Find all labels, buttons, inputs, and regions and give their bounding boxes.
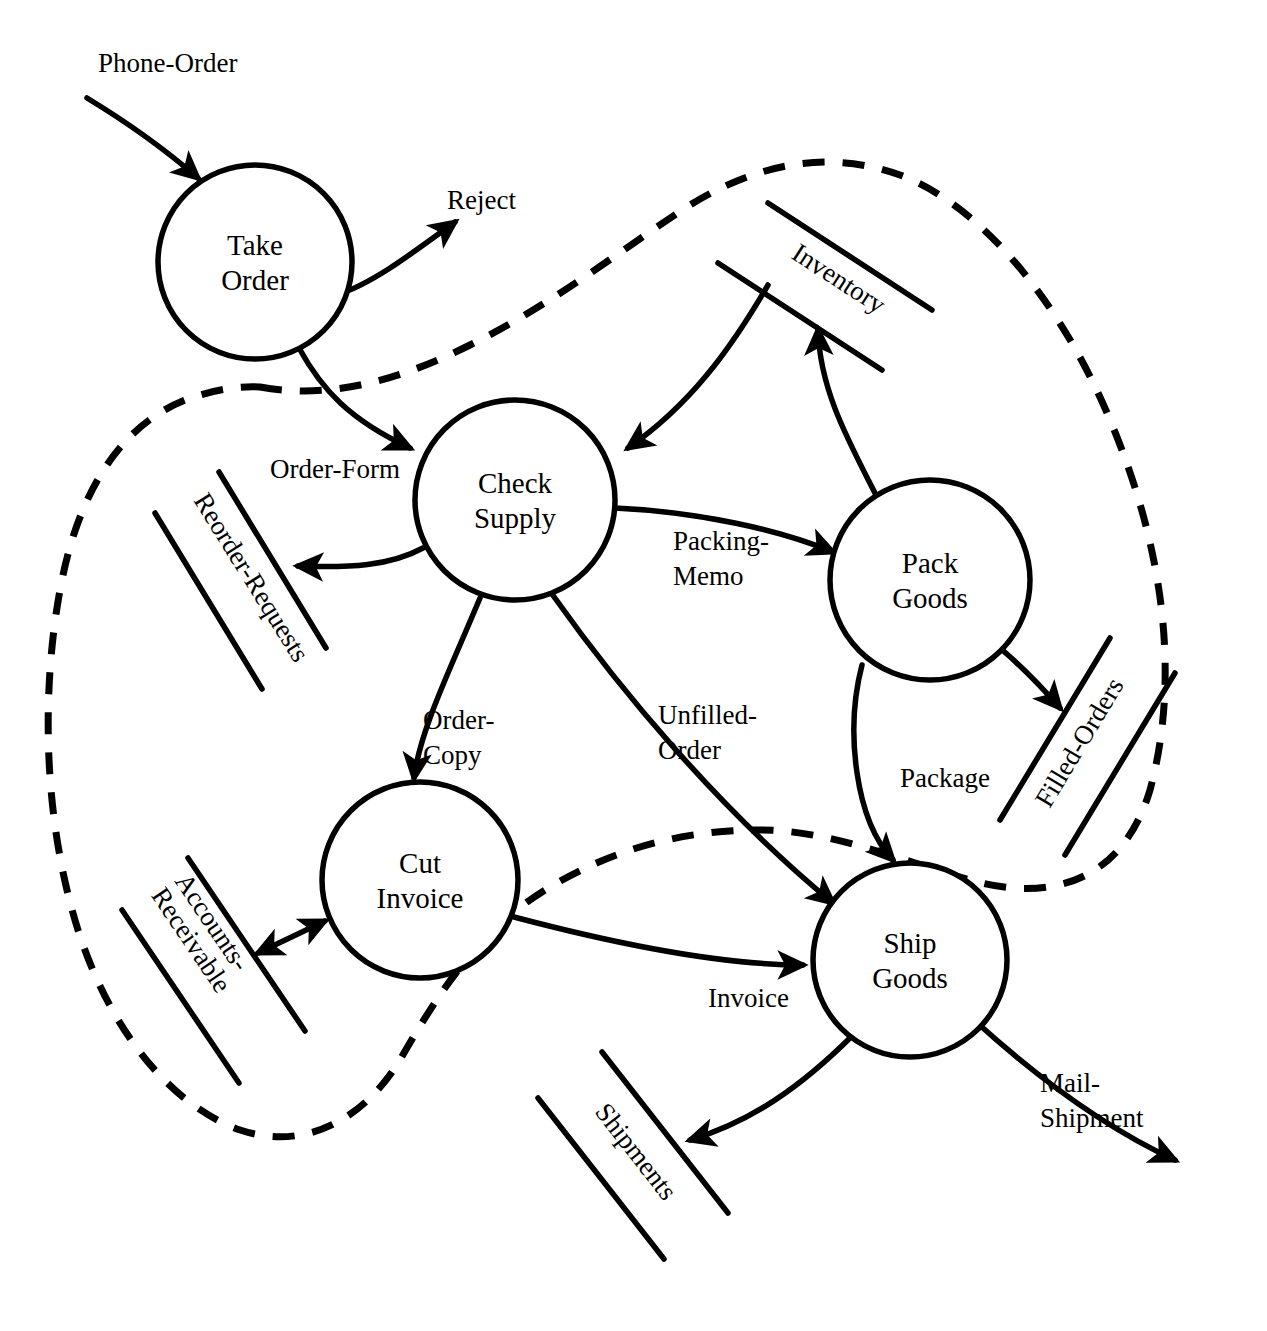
- data-store-reorder-requests-label: Reorder-Requests: [188, 487, 316, 666]
- pack-goods-circle: [830, 480, 1030, 680]
- flow-invoice-arrow[interactable]: [514, 917, 803, 965]
- flow-label-packing-memo-line1: Packing-: [673, 526, 769, 556]
- dfd-canvas: Inventory Reorder-Requests Filled-Orders…: [0, 0, 1267, 1331]
- take-order-circle: [158, 165, 352, 359]
- data-store-shipments[interactable]: Shipments: [538, 1052, 728, 1259]
- data-store-shipments-label: Shipments: [589, 1097, 683, 1205]
- process-cut-invoice-label-line2: Invoice: [377, 882, 464, 914]
- flow-accounts-receivable-arrow[interactable]: [258, 921, 325, 953]
- flow-label-order-form: Order-Form: [270, 454, 400, 484]
- process-take-order-label-line2: Order: [221, 264, 289, 296]
- process-take-order-label-line1: Take: [227, 229, 283, 261]
- flow-label-phone-order: Phone-Order: [98, 48, 237, 78]
- flow-label-packing-memo-line2: Memo: [673, 561, 744, 591]
- flow-reorder-requests-arrow[interactable]: [298, 548, 423, 567]
- flow-package-arrow[interactable]: [854, 665, 893, 860]
- process-ship-goods[interactable]: Ship Goods: [813, 863, 1007, 1057]
- cut-invoice-circle: [322, 782, 518, 978]
- flow-label-mail-shipment-line1: Mail-: [1040, 1068, 1100, 1098]
- process-check-supply-label-line2: Supply: [474, 502, 557, 534]
- flow-label-invoice: Invoice: [708, 983, 789, 1013]
- check-supply-circle: [415, 400, 615, 600]
- data-flow-diagram: Inventory Reorder-Requests Filled-Orders…: [0, 0, 1267, 1331]
- data-store-accounts-receivable[interactable]: Accounts- Receivable: [122, 858, 305, 1083]
- flow-pack-goods-to-inventory-arrow[interactable]: [818, 330, 877, 497]
- process-check-supply-label-line1: Check: [478, 467, 553, 499]
- flow-inventory-to-check-supply-arrow[interactable]: [628, 285, 768, 448]
- process-pack-goods[interactable]: Pack Goods: [830, 480, 1030, 680]
- flow-phone-order-arrow[interactable]: [87, 98, 198, 178]
- ship-goods-circle: [813, 863, 1007, 1057]
- flow-label-order-copy-line2: Copy: [423, 740, 482, 770]
- process-pack-goods-label-line1: Pack: [902, 547, 959, 579]
- process-ship-goods-label-line1: Ship: [883, 927, 936, 959]
- flow-label-unfilled-order-line2: Order: [658, 735, 721, 765]
- flow-label-mail-shipment-line2: Shipment: [1040, 1103, 1144, 1133]
- flow-label-package: Package: [900, 763, 990, 793]
- process-pack-goods-label-line2: Goods: [892, 582, 968, 614]
- flow-label-reject: Reject: [447, 185, 516, 215]
- process-take-order[interactable]: Take Order: [158, 165, 352, 359]
- process-ship-goods-label-line2: Goods: [872, 962, 948, 994]
- flow-label-order-copy-line1: Order-: [423, 705, 494, 735]
- flow-filled-orders-arrow[interactable]: [1000, 648, 1060, 708]
- process-cut-invoice[interactable]: Cut Invoice: [322, 782, 518, 978]
- process-check-supply[interactable]: Check Supply: [415, 400, 615, 600]
- flow-shipments-arrow[interactable]: [690, 1035, 853, 1140]
- process-cut-invoice-label-line1: Cut: [399, 847, 441, 879]
- flow-label-unfilled-order-line1: Unfilled-: [658, 700, 757, 730]
- data-store-inventory[interactable]: Inventory: [718, 203, 932, 370]
- data-store-reorder-requests[interactable]: Reorder-Requests: [155, 472, 326, 689]
- flow-order-form-arrow[interactable]: [299, 348, 410, 448]
